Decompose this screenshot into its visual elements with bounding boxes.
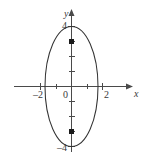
x-axis-arrowhead [126,84,133,90]
y-axis-label: y [64,9,68,19]
x-tick-label-zero: 0 [63,90,68,100]
y-axis-arrowhead [69,9,75,16]
coordinate-plot [0,0,146,160]
y-tick-label-plus4: 4 [62,21,67,31]
focus-lower-point [69,129,74,134]
x-tick-label-minus2: –2 [33,90,43,100]
x-axis-label: x [134,89,138,99]
x-tick-label-plus2: 2 [104,90,109,100]
ellipse-graph-figure: y x –2 0 2 4 –4 [0,0,146,160]
focus-upper-point [69,39,74,44]
y-tick-label-minus4: –4 [57,143,67,153]
